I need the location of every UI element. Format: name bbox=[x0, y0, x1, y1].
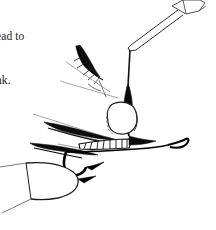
vise-jaw bbox=[0, 163, 96, 213]
hook-eye bbox=[168, 139, 188, 148]
dubbing-cylinder bbox=[107, 102, 138, 134]
fly-tying-illustration bbox=[0, 0, 216, 230]
page-canvas: ead to nk. bbox=[0, 0, 216, 230]
hackle-feather-upper bbox=[60, 45, 118, 98]
ribbed-body bbox=[79, 136, 156, 149]
bobbin-tool bbox=[128, 0, 206, 51]
